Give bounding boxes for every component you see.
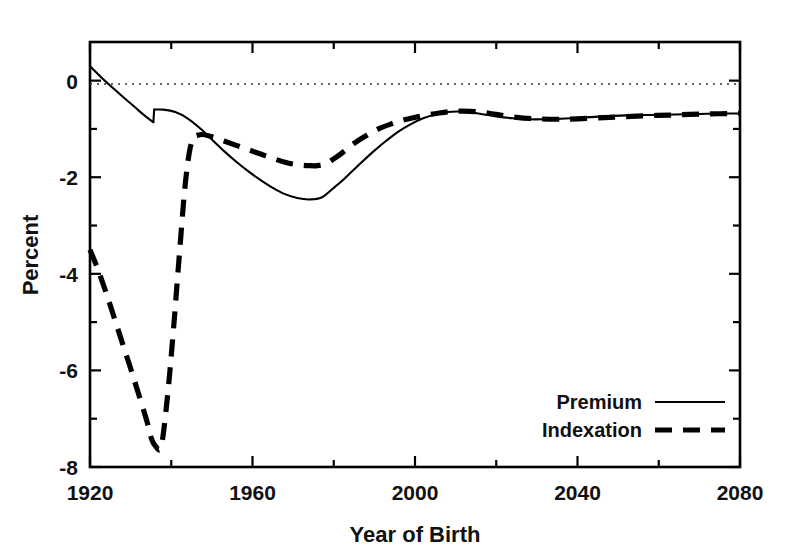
x-tick-label-2000: 2000 — [392, 481, 439, 504]
chart-canvas: 192019602000204020800-2-4-6-8 Percent Ye… — [0, 0, 785, 559]
plot-frame — [90, 42, 740, 467]
x-axis-title: Year of Birth — [350, 522, 481, 547]
y-axis-title: Percent — [18, 214, 43, 295]
x-tick-label-2040: 2040 — [554, 481, 601, 504]
series-line-premium — [90, 66, 153, 122]
y-tick-label-0: 0 — [66, 70, 78, 93]
legend-label-premium: Premium — [556, 391, 642, 413]
x-tick-label-1960: 1960 — [229, 481, 276, 504]
legend-label-indexation: Indexation — [542, 419, 642, 441]
y-tick-label--4: -4 — [59, 263, 78, 286]
chart-figure: 192019602000204020800-2-4-6-8 Percent Ye… — [0, 0, 785, 559]
y-tick-label--8: -8 — [59, 456, 78, 479]
data-series-layer — [90, 66, 740, 450]
chart-legend: Premium Indexation — [542, 391, 725, 441]
series-line-indexation — [90, 111, 740, 450]
series-line-premium-seg1 — [153, 110, 154, 123]
series-line-premium-seg2 — [154, 109, 740, 199]
y-tick-label--2: -2 — [59, 166, 78, 189]
x-tick-label-2080: 2080 — [717, 481, 764, 504]
axis-ticks — [90, 42, 740, 467]
y-tick-label--6: -6 — [59, 359, 78, 382]
x-tick-label-1920: 1920 — [67, 481, 114, 504]
